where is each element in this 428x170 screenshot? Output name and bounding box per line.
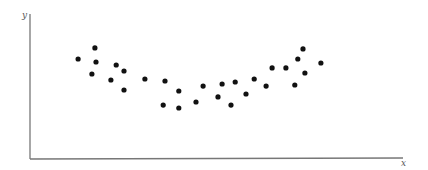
data-point (193, 99, 198, 104)
scatter-chart: y x (0, 0, 428, 170)
data-point (228, 103, 233, 108)
data-point (114, 62, 119, 67)
data-point (176, 105, 181, 110)
data-point (252, 76, 257, 81)
data-point (108, 77, 113, 82)
data-point (201, 84, 206, 89)
data-point (93, 59, 98, 64)
data-point (318, 60, 323, 65)
data-point (233, 79, 238, 84)
data-point (121, 68, 126, 73)
y-axis-label: y (21, 10, 28, 20)
x-axis-line (30, 158, 403, 159)
data-point (264, 84, 269, 89)
x-axis: x (30, 158, 406, 168)
data-point (270, 65, 275, 70)
data-point (215, 94, 220, 99)
data-point (161, 103, 166, 108)
data-point (92, 45, 97, 50)
data-point (162, 78, 167, 83)
y-axis: y (21, 10, 30, 159)
data-point (300, 46, 305, 51)
data-points (76, 45, 324, 110)
data-point (89, 71, 94, 76)
data-point (302, 70, 307, 75)
data-point (243, 91, 248, 96)
data-point (142, 76, 147, 81)
data-point (76, 56, 81, 61)
data-point (295, 56, 300, 61)
data-point (283, 65, 288, 70)
data-point (292, 82, 297, 87)
data-point (121, 87, 126, 92)
data-point (220, 81, 225, 86)
x-axis-label: x (401, 158, 406, 168)
data-point (176, 88, 181, 93)
